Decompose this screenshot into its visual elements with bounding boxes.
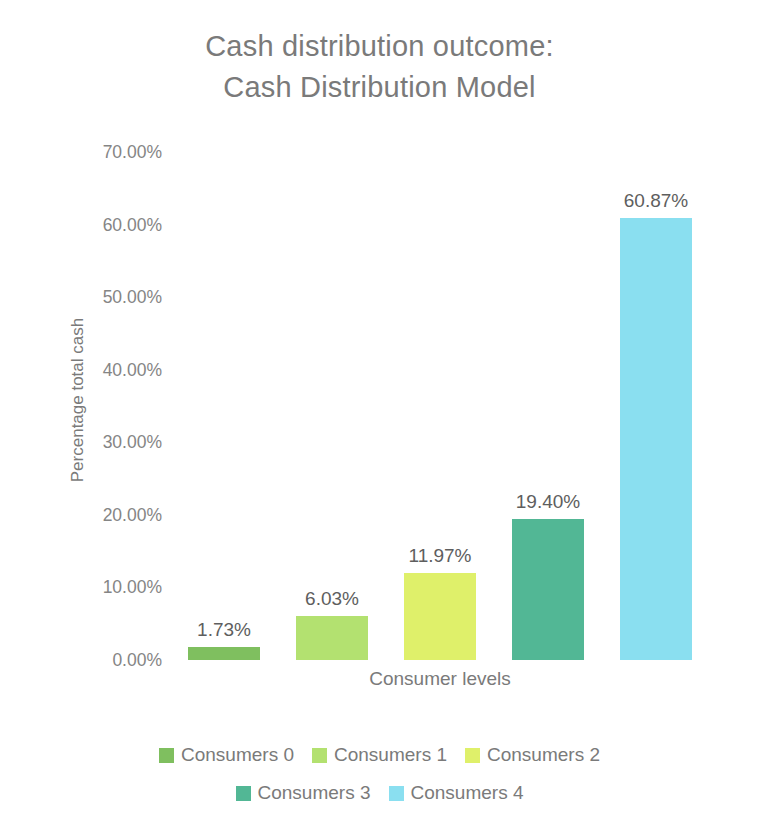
- legend: Consumers 0Consumers 1Consumers 2Consume…: [0, 736, 759, 812]
- y-tick-label: 30.00%: [66, 432, 162, 453]
- bar-0[interactable]: [188, 647, 260, 660]
- legend-swatch-icon: [236, 786, 251, 801]
- y-tick-label: 60.00%: [66, 214, 162, 235]
- bar-value-label-2: 11.97%: [408, 545, 471, 567]
- y-axis-tick-labels: 70.00%60.00%50.00%40.00%30.00%20.00%10.0…: [62, 152, 162, 660]
- legend-row-1: Consumers 3Consumers 4: [0, 774, 759, 812]
- legend-row-0: Consumers 0Consumers 1Consumers 2: [0, 736, 759, 774]
- legend-swatch-icon: [159, 748, 174, 763]
- bar-4[interactable]: [620, 218, 692, 660]
- bar-value-label-4: 60.87%: [624, 190, 688, 212]
- legend-swatch-icon: [312, 748, 327, 763]
- y-tick-label: 10.00%: [66, 577, 162, 598]
- y-tick-label: 0.00%: [66, 650, 162, 671]
- bar-3[interactable]: [512, 519, 584, 660]
- y-tick-label: 50.00%: [66, 287, 162, 308]
- y-tick-label: 70.00%: [66, 142, 162, 163]
- plot-area: 1.73%6.03%11.97%19.40%60.87%: [170, 152, 710, 660]
- legend-swatch-icon: [389, 786, 404, 801]
- y-tick-label: 40.00%: [66, 359, 162, 380]
- bar-1[interactable]: [296, 616, 368, 660]
- chart-title-line-2: Cash Distribution Model: [0, 67, 759, 108]
- bar-value-label-0: 1.73%: [197, 619, 251, 641]
- bar-2[interactable]: [404, 573, 476, 660]
- bar-value-label-3: 19.40%: [516, 491, 580, 513]
- legend-item-0[interactable]: Consumers 0: [159, 744, 294, 766]
- legend-label: Consumers 2: [487, 744, 600, 766]
- legend-item-2[interactable]: Consumers 2: [465, 744, 600, 766]
- bar-chart: Cash distribution outcome: Cash Distribu…: [0, 0, 759, 829]
- bar-value-label-1: 6.03%: [305, 588, 359, 610]
- legend-label: Consumers 0: [181, 744, 294, 766]
- chart-title-line-1: Cash distribution outcome:: [0, 26, 759, 67]
- legend-item-4[interactable]: Consumers 4: [389, 782, 524, 804]
- y-tick-label: 20.00%: [66, 504, 162, 525]
- chart-title: Cash distribution outcome: Cash Distribu…: [0, 26, 759, 108]
- legend-item-3[interactable]: Consumers 3: [236, 782, 371, 804]
- legend-item-1[interactable]: Consumers 1: [312, 744, 447, 766]
- legend-label: Consumers 4: [411, 782, 524, 804]
- x-axis-label: Consumer levels: [170, 668, 710, 690]
- legend-label: Consumers 1: [334, 744, 447, 766]
- legend-label: Consumers 3: [258, 782, 371, 804]
- legend-swatch-icon: [465, 748, 480, 763]
